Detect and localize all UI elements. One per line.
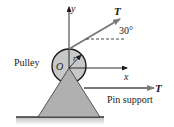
y-axis-label: y [70,3,76,14]
pin-support [38,68,100,117]
angle-label: 30° [119,25,133,36]
tension-lower-label: T [155,82,163,94]
tension-arrow-upper [69,19,120,49]
tension-upper-label: T [114,5,122,17]
ground-shading [16,117,104,125]
pulley-label: Pulley [14,57,40,68]
x-axis-label: x [123,71,129,82]
pulley-diagram: y T 30° Pulley O r x T Pin support [0,0,174,127]
ground [16,117,104,125]
radius-label: r [73,53,77,63]
origin-label: O [56,61,63,72]
pin-support-label: Pin support [107,94,153,105]
